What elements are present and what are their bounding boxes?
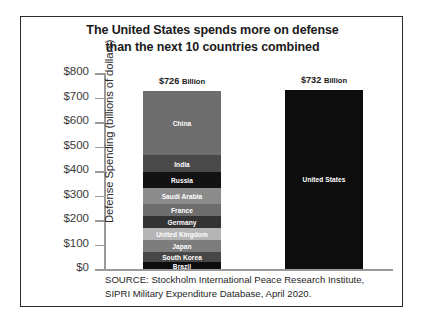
chart-title-line-1: The United States spends more on defense <box>21 22 404 39</box>
y-tick-label: $100 <box>63 237 89 249</box>
bar-segment[interactable]: Japan <box>143 240 221 252</box>
bar-group-next-10: ChinaIndiaRussiaSaudi ArabiaFranceGerman… <box>143 91 221 269</box>
bar-group-united-states: United States$732 Billion <box>285 90 363 269</box>
bar-total-unit: Billion <box>182 77 205 86</box>
bar-segment[interactable]: Brazil <box>143 262 221 269</box>
bar-segment-label: Saudi Arabia <box>143 192 221 199</box>
y-tick-label: $200 <box>63 212 89 224</box>
bar-next-10-combined[interactable]: ChinaIndiaRussiaSaudi ArabiaFranceGerman… <box>143 91 221 269</box>
bar-segment-label: United Kingdom <box>143 230 221 237</box>
y-tick-label: $700 <box>63 90 89 102</box>
bar-segment-label: India <box>143 160 221 167</box>
y-tick-label: $300 <box>63 188 89 200</box>
bar-segment[interactable]: United Kingdom <box>143 228 221 240</box>
bar-segment[interactable]: South Korea <box>143 252 221 263</box>
bar-segment[interactable]: Russia <box>143 172 221 188</box>
bar-total-amount: $732 <box>301 75 324 85</box>
bar-segment-label: China <box>143 120 221 127</box>
bar-segment[interactable]: Saudi Arabia <box>143 188 221 203</box>
source-line-2: SIPRI Military Expenditure Database, Apr… <box>105 287 400 301</box>
x-axis-baseline <box>104 269 393 271</box>
source-line-1: SOURCE: Stockholm International Peace Re… <box>105 273 400 287</box>
plot-area: $800$700$600$500$400$300$200$100$0 Defen… <box>105 73 393 269</box>
chart-title: The United States spends more on defense… <box>21 22 404 57</box>
bar-total-label: $726 Billion <box>159 76 205 86</box>
source-note: SOURCE: Stockholm International Peace Re… <box>105 273 400 300</box>
y-tick-label: $500 <box>63 139 89 151</box>
bar-segment-label: France <box>143 206 221 213</box>
y-tick-label: $600 <box>63 114 89 126</box>
chart-figure: The United States spends more on defense… <box>20 16 403 307</box>
bar-segment[interactable]: France <box>143 204 221 216</box>
bar-segment-label: Germany <box>143 218 221 225</box>
bar-total-label: $732 Billion <box>301 75 347 85</box>
bar-total-amount: $726 <box>159 76 182 86</box>
bar-segment-label: Brazil <box>143 262 221 269</box>
bar-segment-label: United States <box>285 176 363 183</box>
bar-united-states[interactable]: United States <box>285 90 363 269</box>
y-axis-label: Defense Spending (billions of dollars) <box>103 40 115 223</box>
bar-segment[interactable]: India <box>143 155 221 172</box>
y-tick-label: $0 <box>76 261 89 273</box>
y-tick-label: $400 <box>63 163 89 175</box>
bar-segment-label: Russia <box>143 177 221 184</box>
bar-segment[interactable]: United States <box>285 90 363 269</box>
bar-segment[interactable]: China <box>143 91 221 155</box>
bar-segment-label: Japan <box>143 242 221 249</box>
bar-segment[interactable]: Germany <box>143 216 221 228</box>
y-tick-label: $800 <box>63 65 89 77</box>
bar-total-unit: Billion <box>324 76 347 85</box>
chart-title-line-2: than the next 10 countries combined <box>21 39 404 56</box>
y-tick-mark <box>95 245 104 247</box>
bar-segment-label: South Korea <box>143 253 221 260</box>
y-tick-mark <box>95 269 104 271</box>
